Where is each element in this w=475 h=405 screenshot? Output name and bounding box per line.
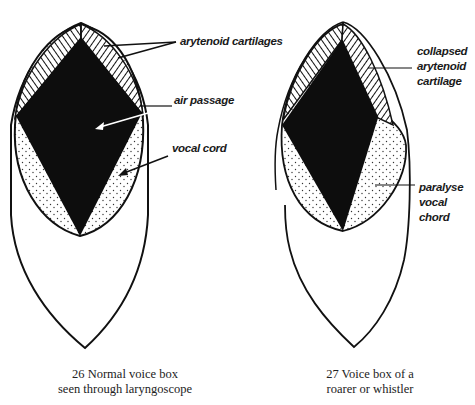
label-vocal: vocal	[419, 195, 447, 210]
caption-figure-27: 27 Voice box of a roarer or whistler	[310, 367, 430, 397]
caption-figure-26: 26 Normal voice box seen through laryngo…	[40, 367, 210, 397]
caption-27-line2: roarer or whistler	[310, 382, 430, 397]
caption-26-line2: seen through laryngoscope	[40, 382, 210, 397]
label-arytenoid-cartilages: arytenoid cartilages	[180, 34, 283, 49]
label-paralyse: paralyse	[419, 180, 463, 195]
label-cartilage: cartilage	[417, 74, 462, 89]
larynx-diagram	[0, 0, 475, 405]
figure-roarer-voice-box	[275, 22, 415, 347]
label-air-passage: air passage	[174, 93, 234, 108]
label-chord: chord	[419, 210, 449, 225]
label-vocal-cord: vocal cord	[172, 141, 227, 156]
label-collapsed: collapsed	[417, 44, 467, 59]
caption-26-line1: 26 Normal voice box	[40, 367, 210, 382]
caption-27-line1: 27 Voice box of a	[310, 367, 430, 382]
label-arytenoid: arytenoid	[417, 59, 466, 74]
figure-normal-voice-box	[11, 23, 176, 348]
